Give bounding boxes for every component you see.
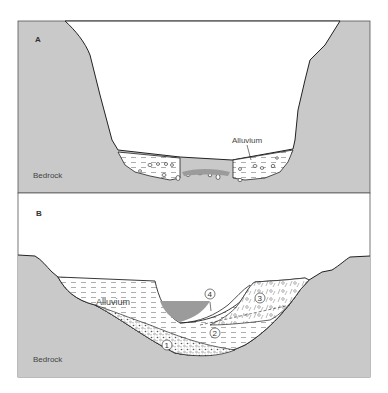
panel-a-alluvium-label: Alluvium xyxy=(232,136,263,145)
panel-a-bedrock-label: Bedrock xyxy=(33,171,63,180)
unit-2-label: 2 xyxy=(213,329,218,338)
panel-b-bedrock-label: Bedrock xyxy=(33,355,63,364)
unit-1-label: 1 xyxy=(165,341,170,350)
unit-3-label: 3 xyxy=(258,294,263,303)
panel-b-alluvium-label: Alluvium xyxy=(96,297,130,307)
panel-b: B Bedrock Alluvium 1 2 3 4 xyxy=(18,193,370,377)
panel-b-label: B xyxy=(36,209,42,218)
panel-a-label: A xyxy=(35,35,41,44)
valley-cross-section-figure: A Bedrock Alluvium B Bedrock Alluvium 1 xyxy=(0,0,388,393)
panel-a: A Bedrock Alluvium xyxy=(18,21,370,193)
unit-4-label: 4 xyxy=(208,290,213,299)
